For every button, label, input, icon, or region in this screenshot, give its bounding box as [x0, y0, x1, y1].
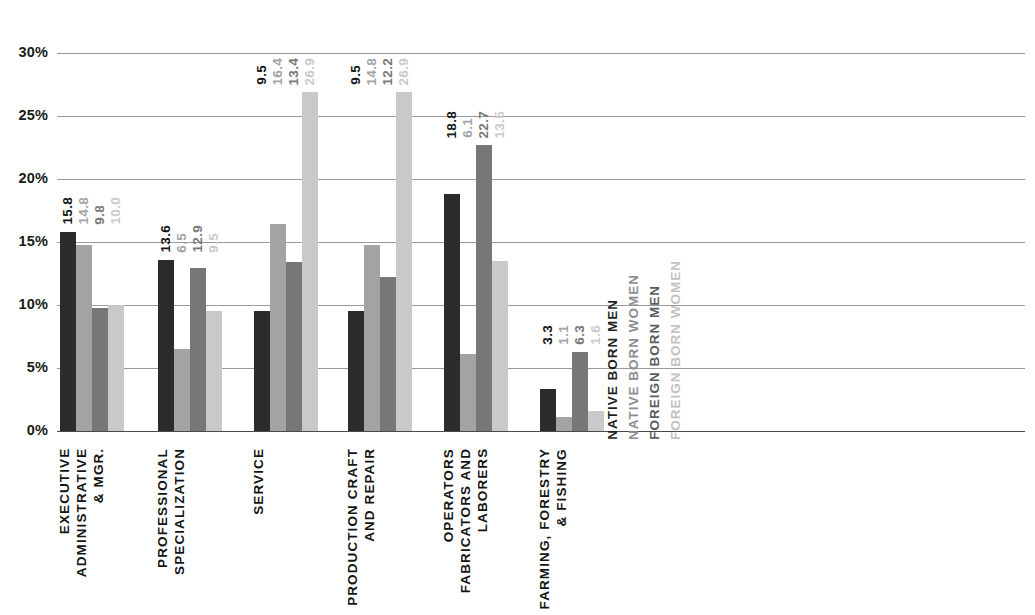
bar-value-label: 1.1: [556, 325, 572, 345]
bar[interactable]: [492, 261, 508, 431]
bar[interactable]: [444, 194, 460, 431]
bar-value-labels: 15.814.89.810.0: [60, 197, 124, 224]
bar[interactable]: [460, 354, 476, 431]
bar-value-labels: 9.516.413.426.9: [254, 58, 318, 85]
bar-value-label: 26.9: [302, 58, 318, 85]
legend-item[interactable]: NATIVE BORN MEN: [602, 299, 623, 440]
legend-item[interactable]: FOREIGN BORN WOMEN: [665, 260, 686, 440]
bar-value-label: 9.5: [348, 65, 364, 85]
bar[interactable]: [540, 389, 556, 431]
bar[interactable]: [60, 232, 76, 431]
bar-value-label: 3.3: [540, 325, 556, 345]
category-label: FARMING, FORESTRY & FISHING: [536, 448, 570, 609]
bar-value-labels: 18.86.122.713.5: [444, 111, 508, 138]
bar-value-labels: 9.514.812.226.9: [348, 58, 412, 85]
bar-value-label: 9.5: [206, 233, 222, 253]
bar-value-label: 22.7: [476, 111, 492, 138]
bar[interactable]: [206, 311, 222, 431]
bar-value-label: 6.3: [572, 325, 588, 345]
bar[interactable]: [476, 145, 492, 431]
bar[interactable]: [190, 268, 206, 431]
bar[interactable]: [174, 349, 190, 431]
bar-value-label: 14.8: [76, 197, 92, 224]
bar-value-label: 16.4: [270, 58, 286, 85]
bar-value-label: 9.5: [254, 65, 270, 85]
legend-item[interactable]: NATIVE BORN WOMEN: [623, 274, 644, 440]
bar-value-label: 9.8: [92, 205, 108, 225]
bar-value-label: 12.2: [380, 58, 396, 85]
category-label: PROFESSIONAL SPECIALIZATION: [154, 448, 188, 575]
bar[interactable]: [302, 92, 318, 431]
bar-value-label: 6.1: [460, 118, 476, 138]
bar-chart: 30%25%20%15%10%5%0% 15.814.89.810.013.66…: [0, 0, 1035, 615]
bar-value-label: 18.8: [444, 111, 460, 138]
bar[interactable]: [158, 260, 174, 431]
bar[interactable]: [396, 92, 412, 431]
bar-value-label: 13.6: [158, 225, 174, 252]
bar[interactable]: [286, 262, 302, 431]
category-label: SERVICE: [250, 448, 267, 515]
bar-value-labels: 13.66.512.99.5: [158, 225, 222, 252]
bar[interactable]: [92, 308, 108, 431]
bar-group-bars: [444, 31, 508, 431]
bar-group-bars: [254, 31, 318, 431]
bar-value-label: 13.4: [286, 58, 302, 85]
bar-value-label: 14.8: [364, 58, 380, 85]
bar-group-bars: [348, 31, 412, 431]
bar[interactable]: [270, 224, 286, 431]
category-axis-labels: EXECUTIVE ADMINISTRATIVE & MGR.PROFESSIO…: [0, 440, 1035, 615]
category-label: EXECUTIVE ADMINISTRATIVE & MGR.: [56, 448, 107, 577]
bar-group-bars: [540, 31, 604, 431]
category-label: OPERATORS FABRICATORS AND LABORERS: [440, 448, 491, 593]
bar[interactable]: [254, 311, 270, 431]
bar-group-bars: [60, 31, 124, 431]
legend-item[interactable]: FOREIGN BORN MEN: [644, 285, 665, 440]
bar-value-label: 15.8: [60, 197, 76, 224]
bar[interactable]: [556, 417, 572, 431]
bar-value-label: 6.5: [174, 233, 190, 253]
bar-value-label: 26.9: [396, 58, 412, 85]
bar[interactable]: [364, 245, 380, 431]
bar[interactable]: [380, 277, 396, 431]
bar-value-labels: 3.31.16.31.6: [540, 325, 604, 345]
bar-groups-layer: 15.814.89.810.013.66.512.99.59.516.413.4…: [0, 0, 1035, 440]
bar[interactable]: [76, 245, 92, 431]
bar[interactable]: [108, 305, 124, 431]
bar-value-label: 10.0: [108, 197, 124, 224]
bar[interactable]: [572, 352, 588, 431]
legend: NATIVE BORN MENNATIVE BORN WOMENFOREIGN …: [602, 250, 686, 440]
bar-value-label: 12.9: [190, 225, 206, 252]
bar[interactable]: [348, 311, 364, 431]
bar-value-label: 13.5: [492, 111, 508, 138]
category-label: PRODUCTION CRAFT AND REPAIR: [344, 448, 378, 606]
